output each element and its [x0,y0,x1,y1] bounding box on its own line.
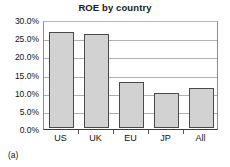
bar-us [49,32,74,128]
chart-figure: ROE by country 30.0%25.0%20.0%15.0%10.0%… [0,0,230,167]
y-tick-label: 25.0% [15,34,39,44]
plot-wrap [43,21,218,130]
x-tick-label-us: US [54,133,67,143]
bar-all [189,88,214,128]
plot-area [43,21,218,130]
x-tick-label-jp: JP [160,133,171,143]
bar-series [44,22,217,129]
y-axis: 30.0%25.0%20.0%15.0%10.0%5.0%0.0% [0,21,39,130]
x-axis-tick [113,130,114,134]
y-tick-label: 5.0% [20,107,39,117]
y-tick-label: 10.0% [15,89,39,99]
figure-caption: (a) [8,150,18,160]
x-axis-tick [183,130,184,134]
bar-uk [84,34,109,128]
x-axis-tick [148,130,149,134]
chart-title: ROE by country [0,2,230,13]
x-tick-label-eu: EU [124,133,137,143]
x-tick-label-uk: UK [89,133,102,143]
y-tick-label: 15.0% [15,71,39,81]
x-axis-tick [78,130,79,134]
bar-jp [154,93,179,128]
x-tick-label-all: All [195,133,205,143]
y-tick-label: 0.0% [20,125,39,135]
bar-eu [119,82,144,128]
y-tick-label: 20.0% [15,52,39,62]
y-tick-label: 30.0% [15,16,39,26]
